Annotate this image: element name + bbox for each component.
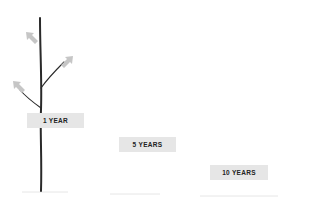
arrow-up-right-icon <box>61 56 73 68</box>
stage-label-10-years: 10 YEARS <box>210 165 268 180</box>
stage-label-5-years: 5 YEARS <box>119 137 176 152</box>
stage-label-1-year: 1 YEAR <box>27 113 84 128</box>
arrow-up-left-icon <box>26 32 38 44</box>
growth-arrows-tree-1 <box>13 32 73 93</box>
ground-lines <box>22 192 278 196</box>
arrow-up-left-icon <box>13 81 25 93</box>
tree-1-year <box>20 18 64 191</box>
